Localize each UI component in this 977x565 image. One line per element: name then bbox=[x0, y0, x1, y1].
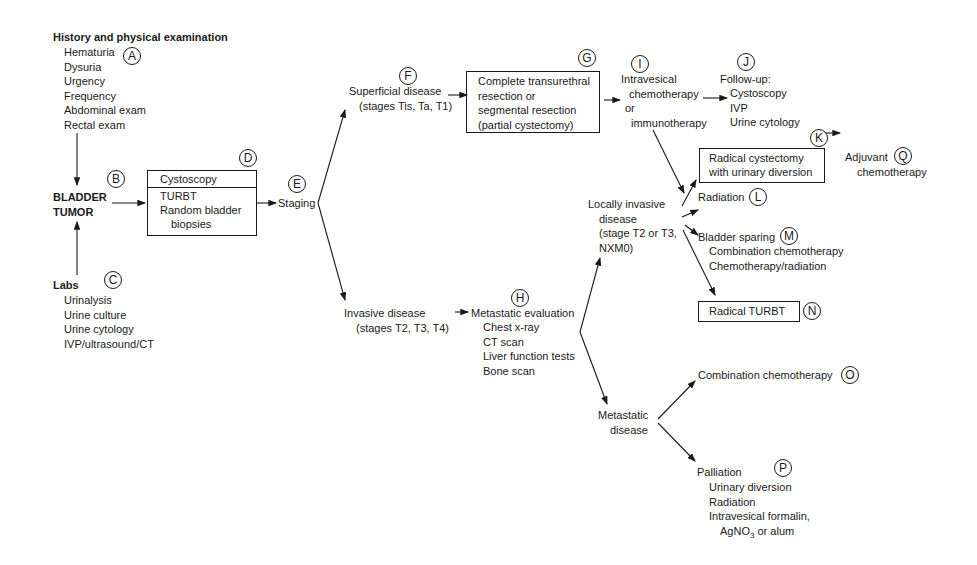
text: or alum bbox=[754, 525, 794, 537]
item: AgNO3 or alum bbox=[709, 524, 810, 544]
cystoscopy-box: Cystoscopy TURBT Random bladder biopsies bbox=[147, 170, 257, 236]
label-q-badge: Q bbox=[894, 147, 912, 165]
item: Cystoscopy bbox=[730, 86, 800, 101]
label-n-badge: N bbox=[803, 302, 821, 320]
metastatic-evaluation-items: Chest x-ray CT scan Liver function tests… bbox=[483, 320, 575, 378]
label-k-badge: K bbox=[810, 129, 828, 147]
label-m-badge: M bbox=[780, 227, 798, 245]
label-g-badge: G bbox=[578, 49, 596, 67]
labs-title: Labs bbox=[53, 278, 79, 293]
line: resection or bbox=[478, 89, 599, 104]
item: Urine cytology bbox=[64, 322, 154, 337]
label-b-badge: B bbox=[107, 170, 125, 188]
follow-up-title: Follow-up: bbox=[720, 72, 771, 87]
bladder-tumor-node: BLADDER TUMOR bbox=[53, 190, 107, 219]
label-c-badge: C bbox=[104, 271, 122, 289]
line: Metastatic bbox=[598, 408, 648, 423]
line: Intravesical bbox=[621, 72, 707, 87]
line: chemotherapy bbox=[845, 165, 927, 180]
line: Invasive disease bbox=[344, 306, 449, 321]
line: Radical cystectomy bbox=[709, 151, 824, 165]
item: biopsies bbox=[160, 217, 256, 231]
item: Bone scan bbox=[483, 364, 575, 379]
item: Combination chemotherapy bbox=[709, 244, 844, 259]
labs-items: Urinalysis Urine culture Urine cytology … bbox=[64, 293, 154, 351]
line: immunotherapy bbox=[621, 116, 707, 131]
line: segmental resection bbox=[478, 103, 599, 118]
staging-label: Staging bbox=[278, 196, 315, 211]
label-d-badge: D bbox=[239, 149, 257, 167]
line: Complete transurethral bbox=[478, 74, 599, 89]
item: Frequency bbox=[64, 89, 146, 104]
adjuvant-chemotherapy: Adjuvant chemotherapy bbox=[845, 150, 927, 179]
label-f-badge: F bbox=[399, 67, 417, 85]
item: Rectal exam bbox=[64, 118, 146, 133]
palliation-title: Palliation bbox=[697, 465, 742, 480]
bladder-sparing-title: Bladder sparing bbox=[698, 230, 775, 245]
label-p-badge: P bbox=[774, 459, 792, 477]
invasive-disease: Invasive disease (stages T2, T3, T4) bbox=[344, 306, 449, 335]
line: (stages T2, T3, T4) bbox=[344, 321, 449, 336]
item: TURBT bbox=[160, 189, 256, 203]
line: or bbox=[621, 101, 707, 116]
follow-up-items: Cystoscopy IVP Urine cytology bbox=[730, 86, 800, 130]
line: Locally invasive bbox=[588, 197, 677, 212]
superficial-disease: Superficial disease (stages Tis, Ta, T1) bbox=[349, 84, 452, 113]
item: Random bladder bbox=[160, 203, 256, 217]
item: Urgency bbox=[64, 74, 146, 89]
palliation-items: Urinary diversion Radiation Intravesical… bbox=[709, 480, 810, 543]
label-h-badge: H bbox=[511, 289, 529, 307]
line: chemotherapy bbox=[621, 87, 707, 102]
line: BLADDER bbox=[53, 190, 107, 205]
line: (partial cystectomy) bbox=[478, 118, 599, 133]
label-j-badge: J bbox=[737, 53, 755, 71]
line: TUMOR bbox=[53, 205, 107, 220]
metastatic-disease: Metastatic disease bbox=[598, 408, 648, 437]
item: Radiation bbox=[709, 495, 810, 510]
radical-turbt-label: Radical TURBT bbox=[699, 302, 799, 318]
line: with urinary diversion bbox=[709, 165, 824, 179]
item: Chemotherapy/radiation bbox=[709, 259, 844, 274]
item: IVP/ultrasound/CT bbox=[64, 337, 154, 352]
resection-box: Complete transurethral resection or segm… bbox=[466, 71, 600, 133]
item: Chest x-ray bbox=[483, 320, 575, 335]
line: (stages Tis, Ta, T1) bbox=[349, 99, 452, 114]
cystoscopy-header: Cystoscopy bbox=[148, 171, 256, 188]
line: Superficial disease bbox=[349, 84, 452, 99]
radical-turbt-box: Radical TURBT bbox=[698, 301, 800, 322]
line: NXM0) bbox=[588, 241, 677, 256]
label-l-badge: L bbox=[749, 188, 767, 206]
metastatic-evaluation-title: Metastatic evaluation bbox=[471, 306, 574, 321]
item: CT scan bbox=[483, 335, 575, 350]
combination-chemotherapy: Combination chemotherapy bbox=[698, 368, 833, 383]
label-a-badge: A bbox=[123, 47, 141, 65]
bladder-sparing-items: Combination chemotherapy Chemotherapy/ra… bbox=[709, 244, 844, 273]
radiation-option: Radiation bbox=[698, 190, 744, 205]
label-i-badge: I bbox=[631, 55, 649, 73]
item: Urinalysis bbox=[64, 293, 154, 308]
text: AgNO bbox=[720, 525, 750, 537]
item: Urinary diversion bbox=[709, 480, 810, 495]
line: disease bbox=[588, 212, 677, 227]
item: Abdominal exam bbox=[64, 103, 146, 118]
item: Urine culture bbox=[64, 308, 154, 323]
line: disease bbox=[598, 423, 648, 438]
item: Liver function tests bbox=[483, 349, 575, 364]
item: Intravesical formalin, bbox=[709, 509, 810, 524]
cystoscopy-items: TURBT Random bladder biopsies bbox=[148, 188, 256, 231]
history-exam-title: History and physical examination bbox=[53, 30, 228, 45]
line: (stage T2 or T3, bbox=[588, 226, 677, 241]
label-o-badge: O bbox=[841, 366, 859, 384]
intravesical-therapy: Intravesical chemotherapy or immunothera… bbox=[621, 72, 707, 130]
item: Urine cytology bbox=[730, 115, 800, 130]
item: IVP bbox=[730, 101, 800, 116]
locally-invasive-disease: Locally invasive disease (stage T2 or T3… bbox=[588, 197, 677, 255]
radical-cystectomy-box: Radical cystectomy with urinary diversio… bbox=[699, 148, 825, 183]
label-e-badge: E bbox=[288, 175, 306, 193]
line: Adjuvant bbox=[845, 150, 927, 165]
